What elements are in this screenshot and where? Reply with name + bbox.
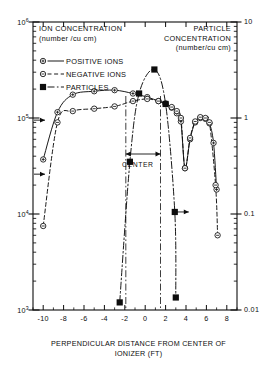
right-y-tick-label: 0.01 [244,305,259,314]
right-axis-title-line3: (number/cu cm) [133,43,231,53]
right-y-tick-label: 0.1 [244,209,255,218]
left-y-tick-label: 104 [2,209,29,219]
left-y-tick-label: 105 [2,113,29,123]
data-markers [41,66,221,305]
right-y-tick-label: 10 [244,17,253,26]
left-axis-title-line1: ION CONCENTRATION [39,24,122,34]
x-tick-label: 8 [213,314,241,323]
left-y-tick-label: 106 [2,17,29,27]
legend-label-negative-ions: NEGATIVE IONS [66,70,126,79]
legend-symbols [40,58,64,90]
left-y-tick-label: 103 [2,305,29,315]
data-curves [43,69,217,302]
center-annotation-label: CENTER [122,161,154,168]
left-axis-title-line2: (number /cu cm) [39,34,97,44]
x-axis-title-line2: IONIZER (FT) [0,349,277,358]
right-axis-title-line1: PARTICLE [133,24,231,34]
legend-label-positive-ions: POSITIVE IONS [66,57,123,66]
chart-annotations [34,96,189,308]
right-axis-title-line2: CONCENTRATION [133,34,231,44]
right-y-tick-label: 1 [244,113,248,122]
x-axis-title-line1: PERPENDICULAR DISTANCE FROM CENTER OF [0,339,277,348]
legend-label-particles: PARTICLES [66,83,109,92]
